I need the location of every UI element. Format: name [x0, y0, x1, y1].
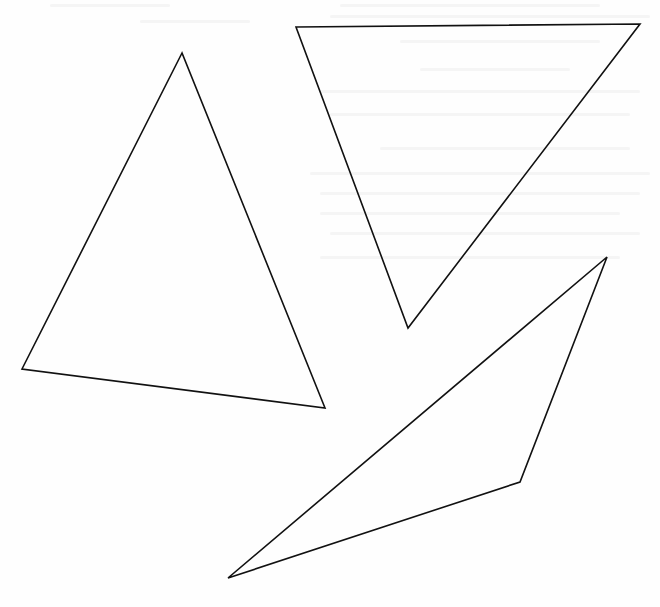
triangle-upper-right: [296, 24, 640, 328]
diagram-canvas: [0, 0, 660, 607]
triangle-left: [22, 53, 325, 408]
triangles-figure: [0, 0, 660, 607]
triangle-lower-right: [228, 257, 607, 578]
